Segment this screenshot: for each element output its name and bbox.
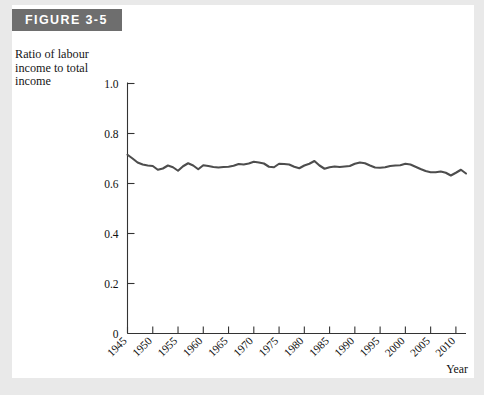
x-axis-tick-label: 1960 <box>180 334 205 359</box>
x-axis-tick-label: 1985 <box>307 334 332 359</box>
y-axis-tick-label: 0.2 <box>104 278 119 290</box>
x-axis-tick-label: 1945 <box>105 334 130 359</box>
x-axis-title: Year <box>446 362 468 376</box>
x-axis-tick-label: 1995 <box>357 334 382 359</box>
x-axis-tick-label: 1975 <box>256 334 281 359</box>
x-axis-tick-label: 1980 <box>281 334 306 359</box>
x-axis-tick-label: 2000 <box>382 334 407 359</box>
x-axis-tick-label: 2010 <box>433 334 458 359</box>
line-chart: 00.20.40.60.81.0194519501955196019651970… <box>0 0 484 395</box>
y-axis-tick-label: 0.8 <box>104 128 119 140</box>
y-axis-tick-label: 0.4 <box>104 228 119 240</box>
x-axis-tick-label: 2005 <box>408 334 433 359</box>
y-axis-tick-label: 0.6 <box>104 178 119 190</box>
chart-plot-area: 00.20.40.60.81.0194519501955196019651970… <box>0 0 484 395</box>
x-axis-tick-label: 1990 <box>332 334 357 359</box>
x-axis-tick-label: 1970 <box>231 334 256 359</box>
data-series-line <box>128 155 467 176</box>
y-axis-tick-label: 1.0 <box>104 78 119 90</box>
x-axis-tick-label: 1965 <box>206 334 231 359</box>
x-axis-tick-label: 1950 <box>130 334 155 359</box>
x-axis-tick-label: 1955 <box>155 334 180 359</box>
figure-container: FIGURE 3-5 Ratio of labour income to tot… <box>0 0 484 395</box>
